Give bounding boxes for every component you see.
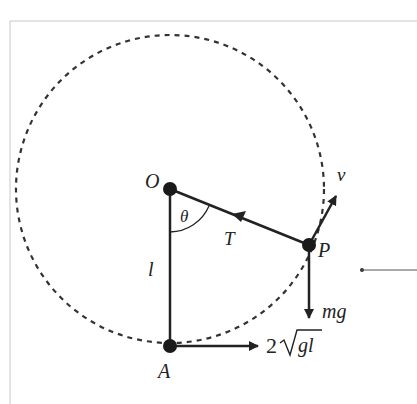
tension-arrow-icon: [232, 211, 246, 222]
angle-arc: [170, 206, 209, 232]
label-speed-radicand: gl: [298, 334, 314, 357]
pendulum-diagram: O θ T P v mg l A 2 gl: [0, 0, 417, 404]
diagram-frame: O θ T P v mg l A 2 gl: [0, 0, 417, 404]
label-tension: T: [224, 228, 236, 249]
label-weight: mg: [322, 300, 346, 323]
label-a: A: [156, 360, 171, 382]
label-o: O: [145, 170, 159, 192]
label-p: P: [317, 239, 330, 261]
pivot-point-o: [163, 182, 177, 196]
label-velocity: v: [337, 164, 346, 185]
label-length: l: [148, 258, 154, 280]
particle-point-p: [302, 238, 316, 252]
label-speed-coeff: 2: [266, 333, 277, 358]
label-theta: θ: [180, 207, 188, 226]
bottom-point-a: [163, 339, 177, 353]
